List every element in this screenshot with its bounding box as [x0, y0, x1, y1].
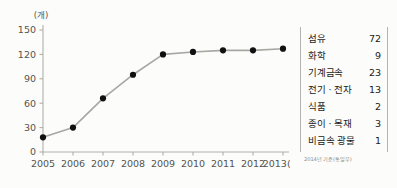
- data-line: [43, 49, 283, 138]
- y-axis-tick-label: 0: [30, 146, 36, 157]
- table-row-value: 2: [367, 98, 381, 115]
- table-row-label: 식품: [308, 98, 326, 115]
- x-axis-tick-label: 2012: [241, 158, 265, 169]
- table-row-value: 72: [367, 30, 381, 47]
- table-row: 전기 · 전자13: [301, 81, 387, 98]
- figure-container: (개)0306090120150200520062007200820092010…: [0, 0, 397, 188]
- data-point-marker: [250, 47, 256, 53]
- y-axis-unit-label: (개): [34, 10, 49, 20]
- x-axis-tick-label: 2007: [91, 158, 115, 169]
- statistics-table-panel: 섬유72화학9기계금속23전기 · 전자13식품2종이 · 목재3비금속 광물1…: [300, 27, 388, 162]
- table-row-label: 섬유: [308, 30, 326, 47]
- table-row-value: 1: [367, 132, 381, 149]
- x-axis-tick-label: 2009: [151, 158, 175, 169]
- data-point-marker: [130, 72, 136, 78]
- source-note: 2014년 기준(통일부): [300, 155, 388, 162]
- data-point-marker: [190, 49, 196, 55]
- table-row-value: 13: [367, 81, 381, 98]
- x-axis-tick-label: 2013(년): [263, 158, 290, 169]
- table-row-label: 비금속 광물: [308, 132, 355, 149]
- data-point-marker: [70, 125, 76, 131]
- table-row: 식품2: [301, 98, 387, 115]
- table-row: 화학9: [301, 47, 387, 64]
- x-axis-tick-label: 2008: [121, 158, 145, 169]
- data-point-marker: [160, 51, 166, 57]
- table-row: 종이 · 목재3: [301, 115, 387, 132]
- statistics-table: 섬유72화학9기계금속23전기 · 전자13식품2종이 · 목재3비금속 광물1: [300, 27, 388, 152]
- x-axis-tick-label: 2010: [181, 158, 205, 169]
- table-row-label: 화학: [308, 47, 326, 64]
- y-axis-tick-label: 150: [18, 24, 36, 35]
- y-axis-tick-label: 90: [24, 73, 36, 84]
- data-point-marker: [100, 95, 106, 101]
- table-row-label: 종이 · 목재: [308, 115, 352, 132]
- line-chart-svg: (개)0306090120150200520062007200820092010…: [0, 0, 290, 188]
- y-axis-tick-label: 120: [18, 49, 36, 60]
- table-row: 섬유72: [301, 30, 387, 47]
- line-chart-panel: (개)0306090120150200520062007200820092010…: [0, 0, 290, 188]
- x-axis-tick-label: 2011: [211, 158, 235, 169]
- table-row-value: 9: [367, 47, 381, 64]
- table-row-value: 23: [367, 64, 381, 81]
- table-row: 비금속 광물1: [301, 132, 387, 149]
- table-row-value: 3: [367, 115, 381, 132]
- data-point-marker: [220, 47, 226, 53]
- y-axis-tick-label: 30: [24, 122, 36, 133]
- table-row-label: 기계금속: [308, 64, 343, 81]
- y-axis-tick-label: 60: [24, 98, 36, 109]
- data-point-marker: [40, 134, 46, 140]
- x-axis-tick-label: 2005: [31, 158, 55, 169]
- table-row-label: 전기 · 전자: [308, 81, 352, 98]
- table-row: 기계금속23: [301, 64, 387, 81]
- x-axis-tick-label: 2006: [61, 158, 85, 169]
- data-point-marker: [280, 46, 286, 52]
